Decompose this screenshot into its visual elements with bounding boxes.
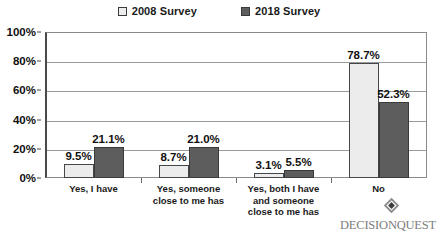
legend-swatch-icon-2008 bbox=[118, 7, 127, 16]
x-category-line: close to me has bbox=[248, 206, 320, 218]
legend-swatch-icon-2018 bbox=[241, 7, 250, 16]
bar-value-label: 3.1% bbox=[255, 159, 281, 171]
x-category-label: No bbox=[372, 183, 385, 195]
bar-2018 bbox=[189, 147, 219, 178]
x-category-label: Yes, I have bbox=[69, 183, 118, 195]
bar-value-label: 21.1% bbox=[92, 133, 125, 145]
y-axis: 0%20%40%60%80%100% bbox=[0, 32, 41, 178]
legend-entry-2008-survey: 2008 Survey bbox=[118, 5, 197, 17]
y-tick-mark bbox=[37, 32, 41, 33]
x-category-line: and someone bbox=[248, 195, 320, 207]
legend-entry-2018-survey: 2018 Survey bbox=[241, 5, 320, 17]
bar-2008 bbox=[64, 164, 94, 178]
y-tick-label: 60% bbox=[13, 84, 36, 96]
bar-group: 8.7%21.0% bbox=[141, 32, 236, 178]
bar-2008 bbox=[254, 173, 284, 178]
bar-group: 3.1%5.5% bbox=[236, 32, 331, 178]
y-tick-mark bbox=[37, 119, 41, 120]
survey-bar-chart: 2008 Survey 2018 Survey 0%20%40%60%80%10… bbox=[0, 0, 438, 235]
bar-group: 78.7%52.3% bbox=[331, 32, 426, 178]
bar-group: 9.5%21.1% bbox=[46, 32, 141, 178]
logo-wordmark: DECISIONQUEST bbox=[340, 218, 436, 233]
diamond-logo-icon bbox=[383, 197, 400, 214]
chart-legend: 2008 Survey 2018 Survey bbox=[0, 2, 438, 20]
legend-label-2018: 2018 Survey bbox=[255, 5, 320, 17]
y-tick-label: 0% bbox=[19, 172, 36, 184]
bar-value-label: 5.5% bbox=[285, 156, 311, 168]
bar-value-label: 9.5% bbox=[65, 150, 91, 162]
bar-2018 bbox=[94, 147, 124, 178]
x-category-line: close to me has bbox=[153, 195, 224, 207]
y-tick-label: 20% bbox=[13, 143, 36, 155]
bar-2008 bbox=[349, 63, 379, 178]
y-tick-mark bbox=[37, 61, 41, 62]
y-tick-label: 100% bbox=[7, 26, 36, 38]
y-tick-mark bbox=[37, 178, 41, 179]
bar-value-label: 78.7% bbox=[347, 49, 380, 61]
y-tick-label: 80% bbox=[13, 55, 36, 67]
x-category-label: Yes, both I haveand someoneclose to me h… bbox=[248, 183, 320, 218]
x-category-line: Yes, I have bbox=[69, 183, 118, 195]
bar-value-label: 8.7% bbox=[160, 151, 186, 163]
y-tick-mark bbox=[37, 148, 41, 149]
decisionquest-logo: DECISIONQUEST bbox=[332, 197, 436, 233]
bar-value-label: 21.0% bbox=[187, 133, 220, 145]
bar-value-label: 52.3% bbox=[377, 88, 410, 100]
x-category-line: No bbox=[372, 183, 385, 195]
x-axis-tick bbox=[236, 178, 237, 183]
x-category-line: Yes, both I have bbox=[248, 183, 320, 195]
x-axis-tick bbox=[331, 178, 332, 183]
x-axis-tick bbox=[141, 178, 142, 183]
legend-label-2008: 2008 Survey bbox=[132, 5, 197, 17]
x-category-label: Yes, someoneclose to me has bbox=[153, 183, 224, 206]
y-tick-mark bbox=[37, 90, 41, 91]
x-category-line: Yes, someone bbox=[153, 183, 224, 195]
bar-2008 bbox=[159, 165, 189, 178]
bars-layer: 9.5%21.1%8.7%21.0%3.1%5.5%78.7%52.3% bbox=[46, 32, 426, 178]
bar-2018 bbox=[284, 170, 314, 178]
y-tick-label: 40% bbox=[13, 114, 36, 126]
bar-2018 bbox=[379, 102, 409, 178]
